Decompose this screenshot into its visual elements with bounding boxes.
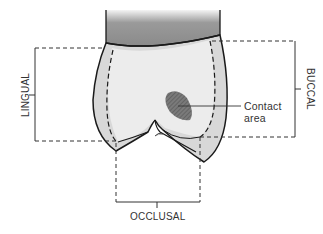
contact-label-line1: Contact — [244, 100, 282, 112]
tooth-crown — [93, 35, 227, 162]
buccal-label: BUCCAL — [305, 64, 316, 114]
contact-area-label: Contact area — [244, 100, 282, 124]
contact-label-line2: area — [244, 112, 282, 124]
occlusal-label: OCCLUSAL — [130, 211, 186, 222]
lingual-label: LINGUAL — [20, 70, 31, 120]
